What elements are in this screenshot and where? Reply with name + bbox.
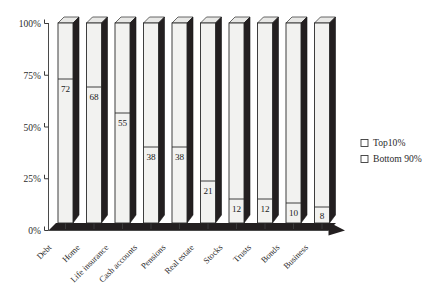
bar-front-face: [172, 23, 187, 223]
y-axis-tick-label-4: 100%: [19, 19, 41, 29]
bar-side-face: [159, 17, 165, 223]
bar-side-face: [244, 17, 250, 223]
chart-canvas: 0% 25% 50% 75% 100%: [0, 0, 446, 284]
bar-value-label-9: 8: [320, 211, 325, 221]
bar-value-label-0: 72: [61, 84, 71, 94]
bar-side-face: [73, 17, 79, 223]
chart-legend: Top10% Bottom 90%: [361, 137, 422, 164]
bar-value-label-4: 38: [175, 152, 185, 162]
x-axis-tick-label-7: Trusts: [231, 242, 254, 265]
x-axis-tick-label-5: Real estate: [162, 242, 196, 276]
x-axis: [49, 222, 346, 236]
legend-item-0[interactable]: Top10%: [361, 137, 405, 148]
y-axis-tick-label-3: 75%: [24, 71, 42, 81]
x-axis-tick-label-9: Business: [281, 242, 310, 271]
bar-side-face: [216, 17, 222, 223]
bar-value-label-8: 10: [289, 208, 299, 218]
bar-value-label-6: 12: [232, 204, 242, 214]
legend-item-label-0: Top10%: [373, 137, 405, 148]
y-axis-tick-group-3: 75%: [24, 71, 49, 81]
bar-side-face: [330, 17, 336, 223]
bar-front-face: [258, 23, 273, 223]
bar-front-face: [87, 23, 102, 223]
legend-swatch-icon: [361, 140, 368, 147]
bars-group: 72 Debt 68 Home 55: [35, 17, 336, 284]
legend-swatch-icon: [361, 156, 368, 163]
bar-front-face: [315, 23, 330, 223]
stacked-bar-chart: 0% 25% 50% 75% 100%: [0, 0, 446, 284]
legend-item-1[interactable]: Bottom 90%: [361, 153, 422, 164]
bar-side-face: [273, 17, 279, 223]
y-axis-tick-label-0: 0%: [28, 226, 41, 236]
y-axis-tick-group-4: 100%: [19, 19, 49, 29]
x-axis-tick-label-1: Home: [60, 242, 82, 264]
bar-side-face: [187, 17, 193, 223]
bar-value-label-3: 38: [146, 152, 156, 162]
x-axis-tick-label-0: Debt: [35, 242, 54, 261]
y-axis-tick-label-1: 25%: [24, 174, 42, 184]
y-axis: 0% 25% 50% 75% 100%: [19, 19, 49, 236]
bar-front-face: [229, 23, 244, 223]
bar-side-face: [102, 17, 108, 223]
x-axis-arrowhead: [329, 222, 346, 236]
bar-side-face: [130, 17, 136, 223]
bar-front-face: [144, 23, 159, 223]
y-axis-tick-group-0: 0%: [28, 226, 48, 236]
bar-value-label-5: 21: [203, 186, 213, 196]
x-axis-tick-label-6: Stocks: [201, 242, 225, 266]
bar-value-label-7: 12: [260, 204, 270, 214]
bar-value-label-2: 55: [118, 118, 128, 128]
axis-floor-band: [49, 223, 337, 231]
y-axis-tick-group-2: 50%: [24, 123, 49, 133]
bar-front-face: [286, 23, 301, 223]
x-axis-tick-label-8: Bonds: [259, 242, 282, 265]
bar-front-face: [58, 23, 73, 223]
bar-side-face: [301, 17, 307, 223]
y-axis-tick-label-2: 50%: [24, 123, 42, 133]
y-axis-tick-group-1: 25%: [24, 174, 49, 184]
bar-value-label-1: 68: [89, 92, 99, 102]
legend-item-label-1: Bottom 90%: [373, 153, 422, 164]
